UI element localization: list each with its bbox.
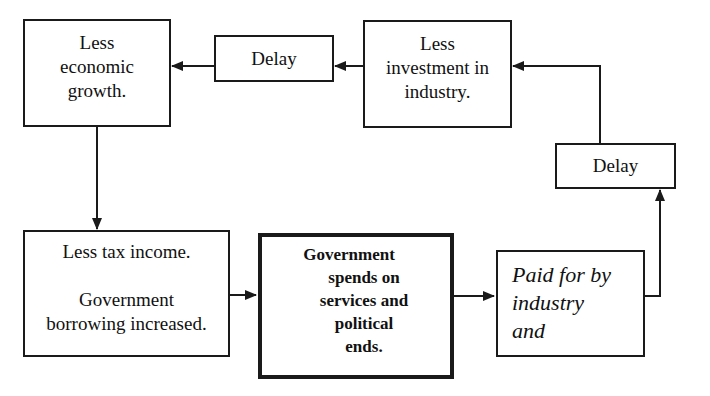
node-text: Less economic growth.	[25, 31, 169, 103]
node-text: Less investment in industry.	[365, 32, 510, 104]
line: spends on	[262, 266, 450, 289]
line: services and	[262, 289, 450, 312]
line: industry	[512, 289, 639, 317]
node-text: Government spends on services and politi…	[262, 243, 450, 358]
node-text: Less tax income. Government borrowing in…	[25, 240, 228, 336]
line: industry.	[365, 80, 510, 104]
node-paid-for-by-industry: Paid for by industry and	[496, 250, 645, 357]
delay-label: Delay	[216, 47, 332, 71]
node-delay-top: Delay	[214, 35, 334, 82]
line: investment in	[365, 56, 510, 80]
line: political	[262, 312, 450, 335]
line: Less tax income.	[25, 240, 228, 264]
arrow-delay-to-investment	[513, 66, 600, 143]
node-less-investment: Less investment in industry.	[363, 20, 512, 128]
line: borrowing increased.	[25, 312, 228, 336]
arrow-paid-to-delay	[644, 190, 660, 296]
line: economic	[25, 55, 169, 79]
line: Government	[25, 288, 228, 312]
node-government-spends: Government spends on services and politi…	[258, 233, 454, 379]
line: Government	[262, 243, 450, 266]
line: Paid for by	[512, 261, 639, 289]
line: Less	[365, 32, 510, 56]
line: and	[512, 317, 639, 345]
node-delay-right: Delay	[555, 143, 676, 189]
node-text: Paid for by industry and	[512, 261, 639, 345]
node-less-tax-income: Less tax income. Government borrowing in…	[23, 230, 230, 357]
node-less-economic-growth: Less economic growth.	[23, 19, 171, 127]
line: ends.	[262, 335, 450, 358]
line: growth.	[25, 79, 169, 103]
line: Less	[25, 31, 169, 55]
delay-label: Delay	[557, 154, 674, 178]
